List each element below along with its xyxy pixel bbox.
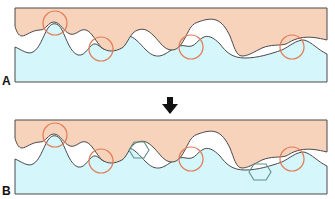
- panel-label-b: B: [2, 184, 11, 198]
- panel-b: [15, 120, 327, 194]
- panel-label-a: A: [2, 74, 11, 88]
- tribology-diagram: [0, 0, 335, 199]
- down-arrow-icon: [162, 97, 178, 114]
- panel-a: [15, 8, 327, 82]
